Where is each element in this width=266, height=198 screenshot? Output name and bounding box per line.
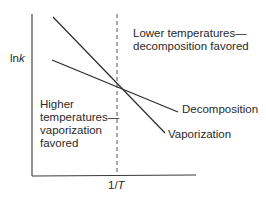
x-axis [32,175,196,176]
decomposition-label: Decomposition [182,103,258,116]
vaporization-label: Vaporization [168,128,231,141]
region-right-label: Lower temperatures— decomposition favore… [133,27,249,53]
region-left-label: Higher temperatures— vaporization favore… [40,98,119,150]
y-axis-label: lnk [10,52,25,65]
x-axis-label: 1/T [108,179,125,192]
arrhenius-diagram: lnk 1/T Lower temperatures— decompositio… [0,0,266,198]
